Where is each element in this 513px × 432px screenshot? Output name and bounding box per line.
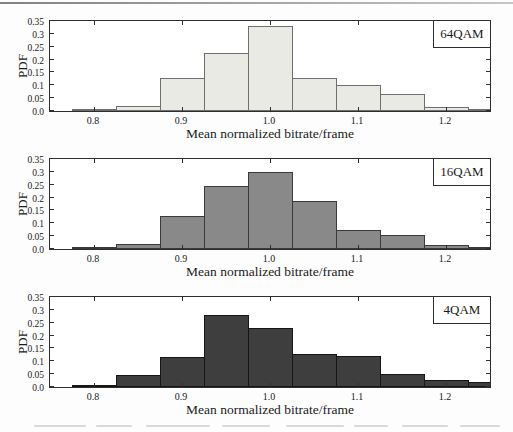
top-divider-line [0, 2, 513, 4]
cropped-caption-remnant [34, 425, 500, 428]
axis-tick-mark [486, 235, 490, 236]
x-tick-label: 1.2 [439, 115, 452, 126]
axis-tick-mark [358, 159, 359, 163]
x-axis-tick-labels: 0.80.91.01.11.2 [49, 113, 491, 126]
axis-tick-mark [486, 347, 490, 348]
axis-tick-mark [486, 209, 490, 210]
y-tick-label: 0.25 [27, 181, 44, 191]
axis-tick-mark [50, 335, 54, 336]
histogram-bar [292, 354, 337, 387]
axis-tick-mark [358, 245, 359, 249]
axis-tick-mark [270, 245, 271, 249]
histogram-panel-16qam: PDF 0.00.050.10.150.20.250.30.35 16QAM 0… [49, 158, 491, 284]
axis-tick-mark [50, 235, 54, 236]
axis-tick-mark [94, 297, 95, 301]
legend-box: 64QAM [433, 21, 490, 48]
x-tick-label: 0.9 [175, 253, 188, 264]
axis-tick-mark [94, 107, 95, 111]
axis-tick-mark [50, 296, 54, 297]
axis-tick-mark [270, 21, 271, 25]
histogram-bar [116, 106, 161, 111]
axis-tick-mark [50, 158, 54, 159]
x-axis-title: Mean normalized bitrate/frame [49, 402, 491, 417]
axis-tick-mark [50, 347, 54, 348]
histogram-bar [116, 244, 161, 249]
axis-tick-mark [50, 309, 54, 310]
axis-tick-mark [94, 245, 95, 249]
axis-tick-mark [50, 33, 54, 34]
axis-tick-mark [486, 222, 490, 223]
histogram-bar [248, 26, 293, 111]
y-tick-label: 0.25 [27, 319, 44, 329]
axis-tick-mark [50, 184, 54, 185]
y-tick-label: 0.05 [27, 370, 44, 380]
y-tick-label: 0.2 [32, 56, 44, 66]
axis-tick-mark [486, 59, 490, 60]
y-tick-label: 0.0 [32, 245, 44, 255]
y-tick-label: 0.3 [32, 30, 44, 40]
y-tick-label: 0.2 [32, 332, 44, 342]
y-tick-label: 0.1 [32, 81, 44, 91]
axis-tick-mark [182, 245, 183, 249]
axis-tick-mark [486, 97, 490, 98]
axis-tick-mark [486, 360, 490, 361]
axis-tick-mark [94, 159, 95, 163]
y-tick-label: 0.0 [32, 383, 44, 393]
plot-area: 64QAM [49, 20, 491, 112]
axis-tick-mark [50, 209, 54, 210]
histogram-bar [160, 78, 205, 111]
x-tick-label: 0.9 [175, 115, 188, 126]
x-tick-label: 1.2 [439, 253, 452, 264]
axis-tick-mark [182, 159, 183, 163]
axis-tick-mark [50, 222, 54, 223]
y-tick-label: 0.35 [27, 155, 44, 165]
y-axis-tick-labels: 0.00.050.10.150.20.250.30.35 [2, 296, 45, 388]
y-tick-label: 0.1 [32, 357, 44, 367]
x-axis-tick-labels: 0.80.91.01.11.2 [49, 251, 491, 264]
axis-tick-mark [50, 71, 54, 72]
axis-tick-mark [50, 322, 54, 323]
axis-tick-mark [50, 20, 54, 21]
axis-tick-mark [486, 373, 490, 374]
axis-tick-mark [270, 107, 271, 111]
axis-tick-mark [486, 197, 490, 198]
y-tick-label: 0.15 [27, 344, 44, 354]
legend-label: 4QAM [444, 302, 481, 318]
y-tick-label: 0.0 [32, 107, 44, 117]
axis-tick-mark [446, 107, 447, 111]
axis-tick-mark [50, 171, 54, 172]
histogram-bar [204, 315, 249, 387]
legend-box: 16QAM [433, 159, 490, 186]
axis-tick-mark [270, 383, 271, 387]
axis-tick-mark [486, 110, 490, 111]
histogram-bar [380, 94, 425, 111]
x-tick-label: 0.9 [175, 391, 188, 402]
axis-tick-mark [50, 386, 54, 387]
axis-tick-mark [270, 159, 271, 163]
x-axis-title: Mean normalized bitrate/frame [49, 264, 491, 279]
legend-label: 64QAM [440, 26, 483, 42]
axis-tick-mark [486, 335, 490, 336]
axis-tick-mark [182, 21, 183, 25]
y-tick-label: 0.35 [27, 293, 44, 303]
histogram-bar [160, 216, 205, 249]
axis-tick-mark [50, 110, 54, 111]
axis-tick-mark [50, 97, 54, 98]
y-tick-label: 0.05 [27, 94, 44, 104]
histogram-bar [380, 374, 425, 387]
x-tick-label: 0.8 [87, 391, 100, 402]
histogram-bar [204, 186, 249, 249]
y-tick-label: 0.15 [27, 68, 44, 78]
axis-tick-mark [50, 248, 54, 249]
histogram-bar [116, 375, 161, 387]
axis-tick-mark [358, 297, 359, 301]
y-tick-label: 0.35 [27, 17, 44, 27]
axis-tick-mark [50, 373, 54, 374]
y-tick-label: 0.3 [32, 306, 44, 316]
x-tick-label: 0.8 [87, 253, 100, 264]
y-axis-tick-labels: 0.00.050.10.150.20.250.30.35 [2, 20, 45, 112]
histogram-bar [248, 328, 293, 387]
x-tick-label: 1.0 [263, 391, 276, 402]
x-tick-label: 1.1 [351, 253, 364, 264]
axis-tick-mark [50, 59, 54, 60]
